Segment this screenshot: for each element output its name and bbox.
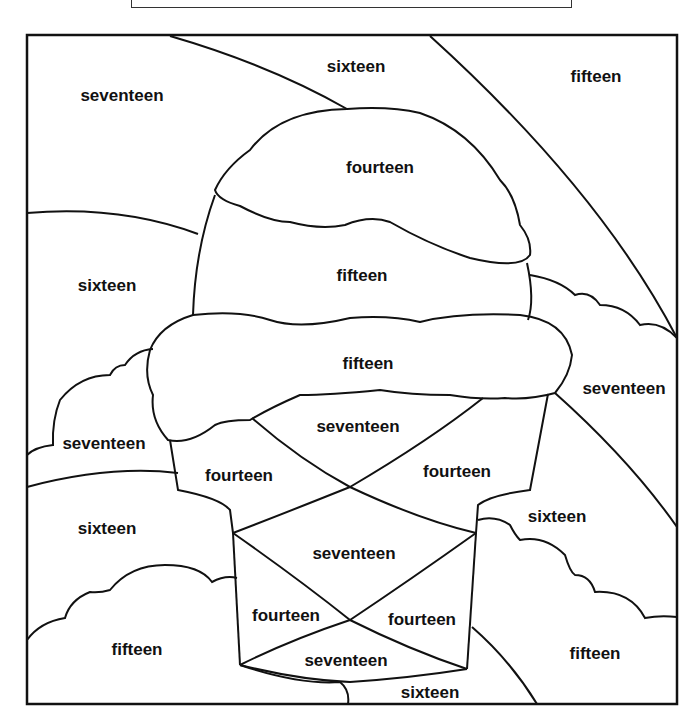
region-label: fifteen <box>112 640 163 660</box>
region-label: sixteen <box>327 57 386 77</box>
middle-scoop-left <box>193 195 215 315</box>
region-label: seventeen <box>582 379 665 399</box>
region-label: fourteen <box>205 466 273 486</box>
arc-bottom-right <box>472 627 537 704</box>
cone-lower-left <box>233 533 240 665</box>
arc-left-lower <box>27 471 178 487</box>
region-label: seventeen <box>62 434 145 454</box>
region-label: fifteen <box>343 354 394 374</box>
cloud-right-upper <box>530 275 677 338</box>
region-label: fourteen <box>388 610 456 630</box>
middle-scoop-right <box>527 263 531 320</box>
region-label: seventeen <box>304 651 387 671</box>
region-label: sixteen <box>401 683 460 703</box>
cone-lower-right <box>467 533 476 669</box>
region-label: sixteen <box>78 276 137 296</box>
region-label: sixteen <box>528 507 587 527</box>
cone-upper-left <box>170 440 233 533</box>
arc-top-left <box>170 36 347 109</box>
region-label: fourteen <box>423 462 491 482</box>
region-label: fifteen <box>570 644 621 664</box>
cloud-right-lower <box>478 518 677 618</box>
top-scoop <box>215 108 530 263</box>
region-label: seventeen <box>80 86 163 106</box>
arc-top-right <box>430 36 677 338</box>
region-label: fifteen <box>571 67 622 87</box>
region-label: sixteen <box>78 519 137 539</box>
cloud-left-bottom <box>27 565 237 640</box>
arc-left-upper <box>27 211 198 234</box>
region-label: seventeen <box>316 417 399 437</box>
region-label: fourteen <box>346 158 414 178</box>
region-label: seventeen <box>312 544 395 564</box>
region-label: fifteen <box>337 266 388 286</box>
region-label: fourteen <box>252 606 320 626</box>
